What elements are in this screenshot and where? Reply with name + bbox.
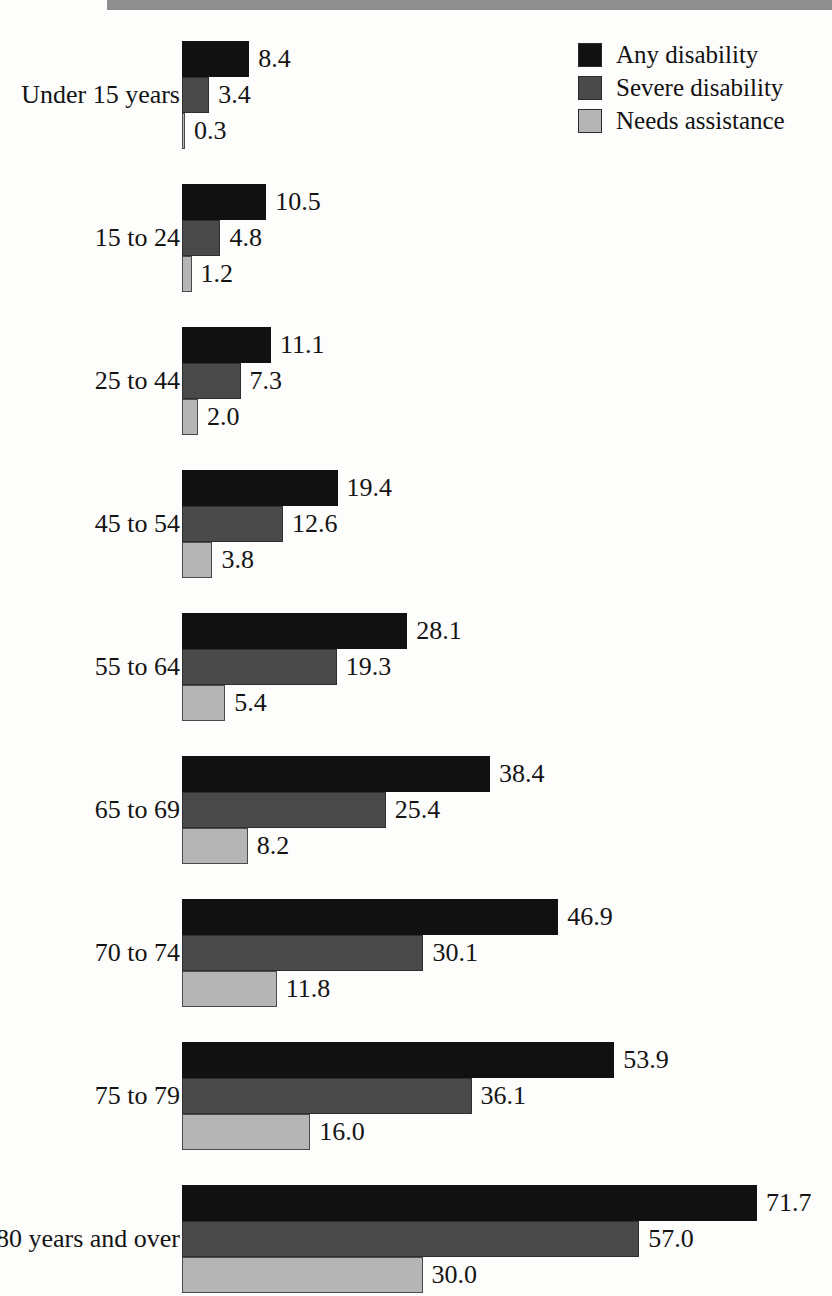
bar-row: 1.2: [182, 256, 332, 292]
bar-group: 65 to 6938.425.48.2: [0, 756, 832, 864]
bar-row: 10.5: [182, 184, 406, 220]
bar-any-disability[interactable]: [182, 1185, 757, 1221]
bar-row: 16.0: [182, 1114, 450, 1150]
bar-value-label: 5.4: [234, 685, 267, 721]
bar-value-label: 8.2: [257, 828, 290, 864]
bar-value-label: 11.8: [286, 971, 331, 1007]
bar-group: 25 to 4411.17.32.0: [0, 327, 832, 435]
bar-needs-assistance[interactable]: [182, 113, 185, 149]
bar-value-label: 28.1: [416, 613, 462, 649]
bar-row: 28.1: [182, 613, 547, 649]
bar-row: 8.2: [182, 828, 388, 864]
bar-any-disability[interactable]: [182, 899, 558, 935]
category-label: 80 years and over: [0, 1221, 180, 1257]
bar-value-label: 46.9: [567, 899, 613, 935]
bar-value-label: 2.0: [207, 399, 240, 435]
bar-row: 25.4: [182, 792, 526, 828]
bar-value-label: 8.4: [258, 41, 291, 77]
bar-needs-assistance[interactable]: [182, 256, 192, 292]
category-label: Under 15 years: [21, 77, 180, 113]
bar-any-disability[interactable]: [182, 613, 407, 649]
bar-row: 5.4: [182, 685, 365, 721]
bar-value-label: 36.1: [481, 1078, 527, 1114]
bar-needs-assistance[interactable]: [182, 399, 198, 435]
bar-row: 30.1: [182, 935, 563, 971]
bar-value-label: 16.0: [319, 1114, 365, 1150]
category-label: 55 to 64: [95, 649, 180, 685]
bar-needs-assistance[interactable]: [182, 1257, 423, 1293]
bar-row: 3.8: [182, 542, 352, 578]
bar-severe-disability[interactable]: [182, 1221, 639, 1257]
bar-row: 19.4: [182, 470, 478, 506]
bar-severe-disability[interactable]: [182, 649, 337, 685]
bar-any-disability[interactable]: [182, 41, 249, 77]
bar-value-label: 4.8: [229, 220, 262, 256]
bar-row: 53.9: [182, 1042, 754, 1078]
category-label: 70 to 74: [95, 935, 180, 971]
bar-value-label: 12.6: [292, 506, 338, 542]
bar-group: 80 years and over71.757.030.0: [0, 1185, 832, 1293]
bar-value-label: 53.9: [623, 1042, 669, 1078]
category-label: 15 to 24: [95, 220, 180, 256]
bar-needs-assistance[interactable]: [182, 828, 248, 864]
bar-severe-disability[interactable]: [182, 77, 209, 113]
bar-group: 55 to 6428.119.35.4: [0, 613, 832, 721]
bar-severe-disability[interactable]: [182, 935, 423, 971]
bar-value-label: 11.1: [280, 327, 325, 363]
disability-by-age-bar-chart: Any disabilitySevere disabilityNeeds ass…: [0, 0, 832, 1296]
bar-value-label: 19.4: [347, 470, 393, 506]
bar-row: 57.0: [182, 1221, 779, 1257]
bar-value-label: 57.0: [648, 1221, 694, 1257]
category-label: 65 to 69: [95, 792, 180, 828]
bar-group: 15 to 2410.54.81.2: [0, 184, 832, 292]
bar-severe-disability[interactable]: [182, 363, 241, 399]
category-label: 45 to 54: [95, 506, 180, 542]
bar-value-label: 10.5: [275, 184, 321, 220]
bar-needs-assistance[interactable]: [182, 1114, 310, 1150]
bar-row: 36.1: [182, 1078, 612, 1114]
bar-row: 7.3: [182, 363, 381, 399]
bar-row: 71.7: [182, 1185, 832, 1221]
bar-any-disability[interactable]: [182, 470, 338, 506]
bar-value-label: 3.8: [221, 542, 254, 578]
bar-row: 2.0: [182, 399, 338, 435]
bar-needs-assistance[interactable]: [182, 542, 212, 578]
bar-group: 75 to 7953.936.116.0: [0, 1042, 832, 1150]
bar-severe-disability[interactable]: [182, 506, 283, 542]
bar-any-disability[interactable]: [182, 184, 266, 220]
bar-group: Under 15 years8.43.40.3: [0, 41, 832, 149]
bar-row: 0.3: [182, 113, 325, 149]
bar-value-label: 30.1: [432, 935, 478, 971]
bar-value-label: 19.3: [346, 649, 392, 685]
bar-group: 70 to 7446.930.111.8: [0, 899, 832, 1007]
bar-value-label: 25.4: [395, 792, 441, 828]
bar-row: 46.9: [182, 899, 698, 935]
bar-severe-disability[interactable]: [182, 792, 386, 828]
bar-value-label: 38.4: [499, 756, 545, 792]
bar-row: 11.8: [182, 971, 417, 1007]
bar-severe-disability[interactable]: [182, 1078, 472, 1114]
bar-value-label: 0.3: [194, 113, 227, 149]
bar-any-disability[interactable]: [182, 756, 490, 792]
bar-row: 3.4: [182, 77, 349, 113]
bar-row: 11.1: [182, 327, 411, 363]
category-label: 25 to 44: [95, 363, 180, 399]
bar-any-disability[interactable]: [182, 327, 271, 363]
bar-value-label: 1.2: [201, 256, 234, 292]
category-label: 75 to 79: [95, 1078, 180, 1114]
bar-row: 12.6: [182, 506, 423, 542]
bar-value-label: 30.0: [432, 1257, 478, 1293]
bar-value-label: 71.7: [766, 1185, 812, 1221]
bar-row: 30.0: [182, 1257, 563, 1293]
chart-plot-area: Under 15 years8.43.40.315 to 2410.54.81.…: [0, 0, 832, 1296]
bar-row: 19.3: [182, 649, 477, 685]
bar-needs-assistance[interactable]: [182, 685, 225, 721]
bar-any-disability[interactable]: [182, 1042, 614, 1078]
bar-value-label: 7.3: [250, 363, 283, 399]
bar-row: 4.8: [182, 220, 360, 256]
bar-value-label: 3.4: [218, 77, 251, 113]
bar-row: 38.4: [182, 756, 630, 792]
bar-severe-disability[interactable]: [182, 220, 220, 256]
bar-needs-assistance[interactable]: [182, 971, 277, 1007]
bar-group: 45 to 5419.412.63.8: [0, 470, 832, 578]
